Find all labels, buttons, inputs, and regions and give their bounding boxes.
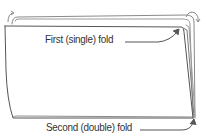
first-fold-arrow [125,29,179,42]
first-fold-label: First (single) fold [45,33,113,45]
folded-paper-illustration [0,0,202,138]
fold-diagram: First (single) fold Second (double) fold [0,0,202,138]
second-fold-label: Second (double) fold [46,121,132,133]
second-fold-arrow [140,119,196,130]
folded-paper-sheet [5,15,195,118]
